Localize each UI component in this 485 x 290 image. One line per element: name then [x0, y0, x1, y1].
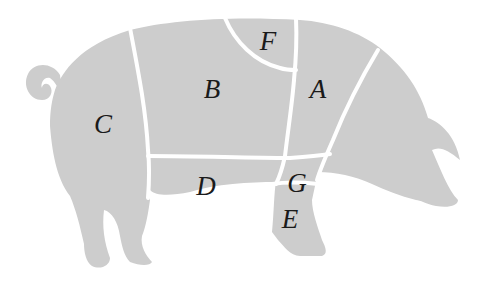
pig-cuts-diagram: A B C D E F G	[0, 0, 485, 290]
label-a: A	[308, 74, 327, 104]
divider-f-right	[294, 18, 296, 80]
pig-silhouette: A B C D E F G	[0, 0, 485, 290]
label-b: B	[204, 74, 221, 104]
label-d: D	[195, 171, 216, 201]
label-g: G	[287, 168, 307, 198]
label-f: F	[259, 26, 277, 56]
label-e: E	[281, 204, 299, 234]
label-c: C	[94, 109, 113, 139]
